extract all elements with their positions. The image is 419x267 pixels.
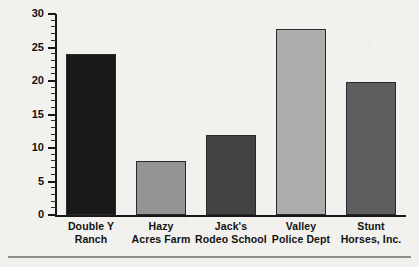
x-axis-label-line: Horses, Inc. xyxy=(330,233,412,246)
x-axis-line xyxy=(55,215,406,217)
bar xyxy=(206,135,256,215)
y-tick-major xyxy=(48,80,56,82)
x-axis-category-labels: Double YRanchHazyAcres FarmJack'sRodeo S… xyxy=(56,220,406,260)
y-axis-tick-label: 30 xyxy=(0,7,44,19)
y-axis-tick-label: 5 xyxy=(0,175,44,187)
bar xyxy=(136,161,186,215)
bar xyxy=(66,54,116,215)
x-axis-label: StuntHorses, Inc. xyxy=(330,220,412,246)
x-axis-label-line: Stunt xyxy=(330,220,412,233)
y-tick-major xyxy=(48,114,56,116)
y-tick-major xyxy=(48,147,56,149)
y-axis-tick-label: 20 xyxy=(0,74,44,86)
y-axis-tick-label: 25 xyxy=(0,41,44,53)
y-tick-major xyxy=(48,181,56,183)
bar-chart: 051015202530 Double YRanchHazyAcres Farm… xyxy=(0,0,419,267)
y-axis-tick-label: 10 xyxy=(0,141,44,153)
footer-rule xyxy=(8,256,411,258)
plot-area xyxy=(56,14,406,215)
y-tick-major xyxy=(48,13,56,15)
y-tick-major xyxy=(48,214,56,216)
y-tick-major xyxy=(48,47,56,49)
bar xyxy=(346,82,396,215)
y-axis-tick-label: 0 xyxy=(0,208,44,220)
y-axis-tick-label: 15 xyxy=(0,108,44,120)
bar xyxy=(276,29,326,215)
